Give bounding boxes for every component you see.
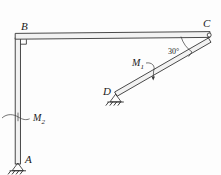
member-column-ab xyxy=(15,38,20,164)
point-label-c: C xyxy=(203,17,211,29)
member-beam-bc xyxy=(15,32,210,40)
statics-frame-diagram: 30° M 1 M 2 B C D A xyxy=(0,0,221,175)
member-strut-dc xyxy=(115,38,211,96)
joint-c xyxy=(207,33,211,37)
hatch-a-2 xyxy=(12,171,15,175)
point-label-b: B xyxy=(21,20,28,32)
moment-label-m2-subscript: 2 xyxy=(42,118,46,126)
hatch-a-3 xyxy=(16,171,19,175)
hatch-d-1 xyxy=(106,102,109,106)
angle-label-c: 30° xyxy=(168,47,179,56)
diagram-canvas: 30° M 1 M 2 B C D A xyxy=(0,0,221,175)
moment-label-m2: M xyxy=(32,112,42,123)
hatch-a-1 xyxy=(8,171,11,175)
moment-arrow-m1-head xyxy=(152,76,156,80)
hatch-d-4 xyxy=(118,102,121,106)
hatch-d-3 xyxy=(114,102,117,106)
moment-label-m1-subscript: 1 xyxy=(141,63,145,71)
moment-label-m1: M xyxy=(131,57,141,68)
hatch-d-2 xyxy=(110,102,113,106)
hatch-a-4 xyxy=(20,171,23,175)
point-label-a: A xyxy=(24,153,32,165)
right-angle-marker-b xyxy=(21,39,27,44)
point-label-d: D xyxy=(102,85,111,97)
